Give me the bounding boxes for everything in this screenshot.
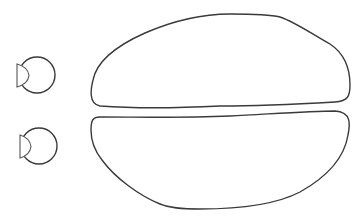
small-knob-bottom xyxy=(20,128,57,164)
knob-d-segment xyxy=(20,135,31,158)
knob-d-segment xyxy=(17,64,29,87)
diagram-canvas xyxy=(0,0,363,221)
large-shape-top xyxy=(91,14,350,108)
small-knob-top xyxy=(17,57,55,93)
large-shape-bottom xyxy=(91,111,349,209)
